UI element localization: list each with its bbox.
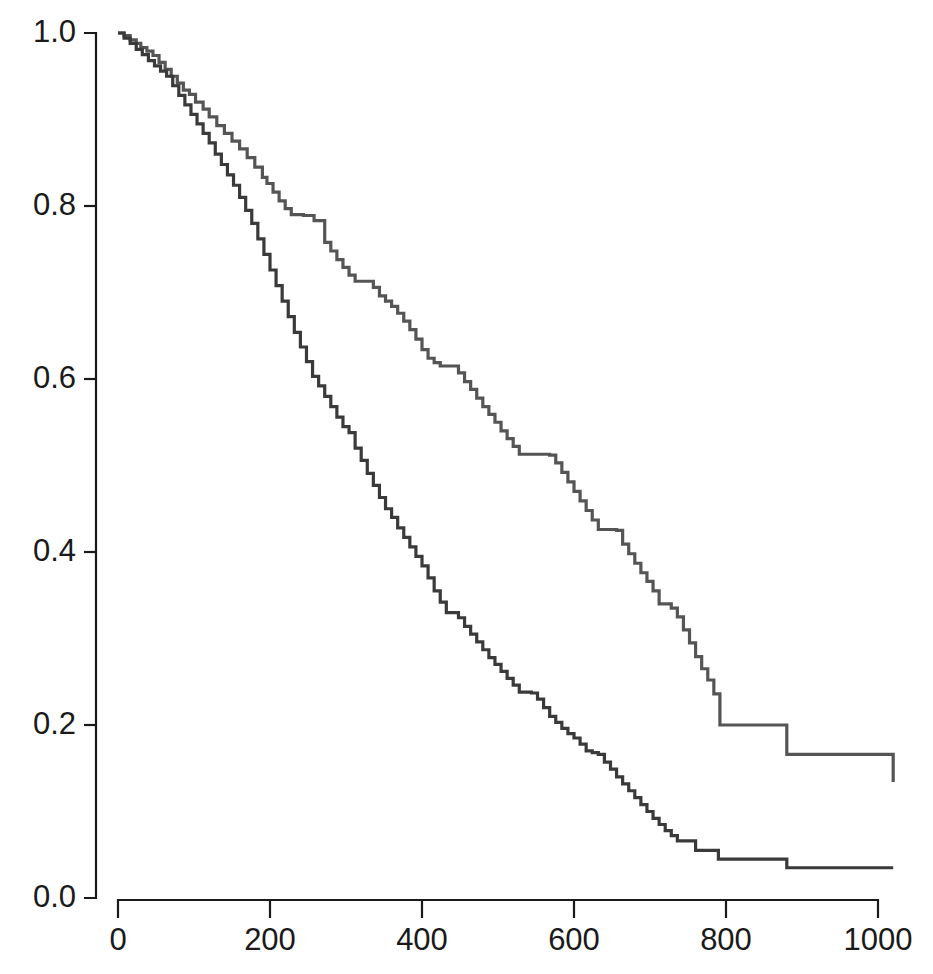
- x-tick-label: 800: [700, 922, 752, 957]
- y-tick-label: 0.8: [33, 187, 76, 222]
- y-axis-line: [84, 33, 96, 898]
- km-survival-plot: 0.00.20.40.60.81.0 02004006008001000: [0, 0, 933, 974]
- x-tick-label: 200: [244, 922, 296, 957]
- y-tick-label: 1.0: [33, 14, 76, 49]
- y-axis-tick-labels: 0.00.20.40.60.81.0: [33, 14, 76, 914]
- x-tick-label: 0: [109, 922, 126, 957]
- y-tick-label: 0.6: [33, 360, 76, 395]
- y-tick-label: 0.4: [33, 533, 76, 568]
- km-curve-lower: [118, 33, 893, 868]
- km-curve-upper: [118, 33, 893, 782]
- x-tick-label: 1000: [844, 922, 913, 957]
- y-tick-label: 0.2: [33, 706, 76, 741]
- x-axis-tick-labels: 02004006008001000: [109, 922, 912, 957]
- x-tick-label: 400: [396, 922, 448, 957]
- y-axis-ticks: [84, 206, 96, 725]
- plot-canvas: 0.00.20.40.60.81.0 02004006008001000: [0, 0, 933, 974]
- x-axis-line: [118, 900, 878, 918]
- x-tick-label: 600: [548, 922, 600, 957]
- x-axis-ticks: [270, 900, 726, 918]
- y-tick-label: 0.0: [33, 879, 76, 914]
